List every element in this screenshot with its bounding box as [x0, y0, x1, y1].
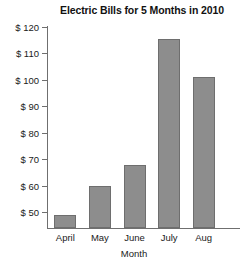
y-axis-tick-label: $ 100: [15, 74, 39, 85]
y-axis-tick: [42, 53, 47, 54]
y-axis-line: [47, 26, 48, 229]
x-axis-title: Month: [47, 248, 221, 259]
y-axis-tick-label: $ 90: [21, 101, 40, 112]
bar: [89, 186, 111, 228]
y-axis-tick: [42, 106, 47, 107]
y-axis-tick-label: $ 110: [16, 48, 39, 59]
x-axis-tick-label: Aug: [195, 232, 212, 243]
y-axis-tick: [42, 80, 47, 81]
y-axis-tick-label: $ 120: [15, 22, 39, 33]
x-axis-tick-label: July: [161, 232, 178, 243]
x-axis-tick-label: April: [56, 232, 75, 243]
bar: [193, 77, 215, 228]
bar: [54, 215, 76, 228]
bar-chart: Electric Bills for 5 Months in 2010 $ 12…: [0, 0, 247, 273]
x-axis-tick-label: June: [124, 232, 145, 243]
y-axis-tick: [42, 186, 47, 187]
y-axis-tick: [42, 27, 47, 28]
y-axis-tick: [42, 212, 47, 213]
chart-title: Electric Bills for 5 Months in 2010: [42, 4, 242, 16]
bar: [124, 165, 146, 228]
y-axis-tick-label: $ 70: [21, 154, 40, 165]
y-axis-tick-label: $ 50: [21, 207, 40, 218]
bar: [158, 39, 180, 228]
y-axis-tick-label: $ 60: [21, 180, 40, 191]
y-axis-tick: [42, 159, 47, 160]
y-axis-tick: [42, 133, 47, 134]
x-axis-tick-label: May: [91, 232, 109, 243]
y-axis-tick-label: $ 80: [21, 127, 40, 138]
x-axis-line: [47, 228, 240, 229]
